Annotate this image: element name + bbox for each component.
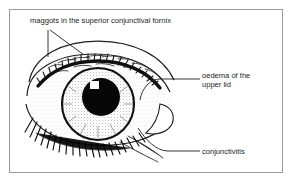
figure-eye-myiasis: maggots in the superior conjunctival for… bbox=[0, 0, 292, 187]
label-maggots: maggots in the superior conjunctival for… bbox=[30, 16, 171, 25]
label-oedema: oedema of the upper lid bbox=[202, 71, 250, 90]
label-oedema-line1: oedema of the bbox=[202, 71, 250, 80]
label-oedema-line2: upper lid bbox=[202, 80, 250, 89]
label-conjunctivitis: conjunctivitis bbox=[202, 147, 245, 156]
